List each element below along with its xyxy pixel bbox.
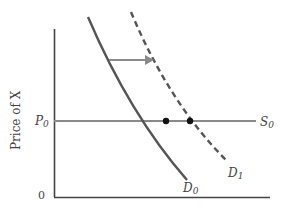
origin-label: 0 — [38, 189, 45, 202]
demand-curve-d0 — [88, 17, 187, 180]
p0-label: P0 — [34, 114, 49, 129]
equilibrium-point-d0 — [163, 118, 169, 124]
demand-shift-diagram: Price of X P0 0 S0 D1 D0 — [0, 0, 284, 220]
demand-curve-d1 — [131, 12, 228, 162]
equilibrium-point-d1 — [187, 118, 193, 124]
d1-label: D1 — [227, 166, 243, 181]
d0-label: D0 — [182, 181, 199, 196]
s0-label: S0 — [260, 115, 274, 130]
shift-arrow-head — [145, 55, 154, 65]
y-axis-label: Price of X — [9, 90, 23, 150]
